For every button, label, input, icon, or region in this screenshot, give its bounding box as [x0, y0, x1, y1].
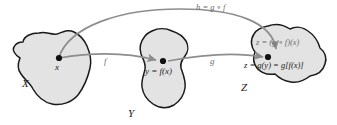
set-label-y: Y [128, 108, 134, 119]
set-label-x: X [22, 78, 29, 89]
map-label-f: f [104, 57, 107, 66]
map-label-g: g [210, 57, 215, 66]
point-x [56, 55, 62, 61]
point-label-y: y = f(x) [145, 67, 172, 76]
map-label-h: h = g ∘ f [196, 3, 225, 12]
point-y [160, 58, 166, 64]
function-composition-figure: X Y Z x y = f(x) z = g(y) = g[f(x)] z = … [0, 0, 337, 125]
set-blob-x [13, 31, 90, 105]
point-label-z: z = g(y) = g[f(x)] [244, 61, 304, 70]
set-blob-z [251, 25, 325, 83]
set-label-z: Z [241, 82, 247, 93]
point-label-x: x [55, 63, 59, 72]
annotation-z-composite: z = (g ∘ f)(x) [256, 38, 299, 47]
